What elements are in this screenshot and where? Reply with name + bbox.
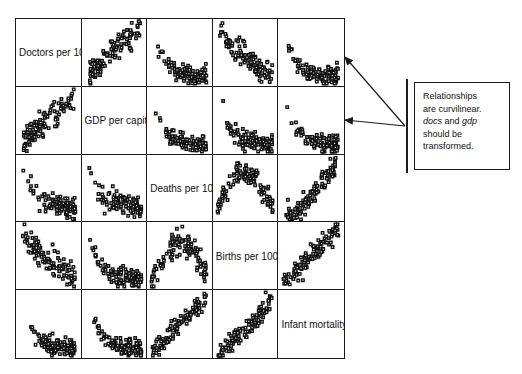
scatter-plot: [213, 155, 278, 222]
scatter-plot: [82, 19, 147, 86]
scatter-plot: [278, 87, 344, 154]
scatter-plot: [16, 222, 81, 289]
scatter-plot: [213, 19, 278, 86]
panel-row3-col5: [278, 155, 344, 223]
scatterplot-matrix-figure: Doctors per 10,000 pGDP per capitaDeaths…: [0, 0, 522, 374]
scatter-plot: [82, 155, 147, 222]
scatter-plot: [278, 222, 344, 289]
annotation-textbox: Relationships are curvilinear. docs and …: [414, 82, 510, 170]
panel-row4-col3: [147, 222, 213, 290]
annotation-line-1: Relationships: [423, 90, 502, 103]
arrow-to-panel-row2-col5: [345, 120, 405, 126]
scatter-plot: [278, 155, 344, 222]
scatter-plot: [16, 290, 81, 358]
scatter-plot: [82, 222, 147, 289]
annotation-line-2: are curvilinear.: [423, 103, 502, 116]
scatter-plot: [147, 222, 212, 289]
annotation-line-3: docs and gdp: [423, 115, 502, 128]
diagonal-label-deaths: Deaths per 1000 peop: [150, 182, 213, 193]
scatterplot-matrix-grid: Doctors per 10,000 pGDP per capitaDeaths…: [15, 18, 345, 359]
panel-row1-col3: [147, 19, 213, 87]
diagonal-label-infmort: Infant mortality rat: [281, 319, 344, 330]
annotation-line-3-mid: and: [442, 116, 462, 126]
panel-row4-col5: [278, 222, 344, 290]
scatter-plot: [147, 290, 212, 358]
annotation-line-4: should be: [423, 128, 502, 141]
panel-row3-col4: [213, 155, 279, 223]
panel-row4-col4: Births per 1000 po: [213, 222, 279, 290]
panel-row1-col1: Doctors per 10,000 p: [16, 19, 82, 87]
scatter-plot: [278, 19, 344, 86]
scatter-plot: [82, 290, 147, 358]
annotation-em-docs: docs: [423, 116, 442, 126]
panel-row1-col2: [82, 19, 148, 87]
panel-row2-col4: [213, 87, 279, 155]
diagonal-label-docs: Doctors per 10,000 p: [19, 47, 82, 58]
panel-row2-col5: [278, 87, 344, 155]
scatter-plot: [16, 155, 81, 222]
panel-row4-col1: [16, 222, 82, 290]
annotation-connector-bar: [406, 79, 408, 173]
panel-row5-col2: [82, 290, 148, 358]
annotation-line-5: transformed.: [423, 140, 502, 153]
annotation-em-gdp: gdp: [462, 116, 477, 126]
panel-row5-col5: Infant mortality rat: [278, 290, 344, 358]
arrow-to-panel-row1-col5: [345, 57, 405, 126]
panel-row3-col1: [16, 155, 82, 223]
scatter-plot: [213, 87, 278, 154]
scatter-plot: [16, 87, 81, 154]
panel-row5-col3: [147, 290, 213, 358]
panel-row3-col3: Deaths per 1000 peop: [147, 155, 213, 223]
panel-row2-col3: [147, 87, 213, 155]
panel-row1-col4: [213, 19, 279, 87]
panel-row3-col2: [82, 155, 148, 223]
diagonal-label-gdp: GDP per capita: [85, 115, 148, 126]
panel-row1-col5: [278, 19, 344, 87]
scatter-plot: [147, 19, 212, 86]
panel-row4-col2: [82, 222, 148, 290]
scatter-plot: [213, 290, 278, 358]
scatter-plot: [147, 87, 212, 154]
panel-row5-col4: [213, 290, 279, 358]
diagonal-label-births: Births per 1000 po: [216, 250, 279, 261]
panel-row2-col1: [16, 87, 82, 155]
panel-row2-col2: GDP per capita: [82, 87, 148, 155]
panel-row5-col1: [16, 290, 82, 358]
